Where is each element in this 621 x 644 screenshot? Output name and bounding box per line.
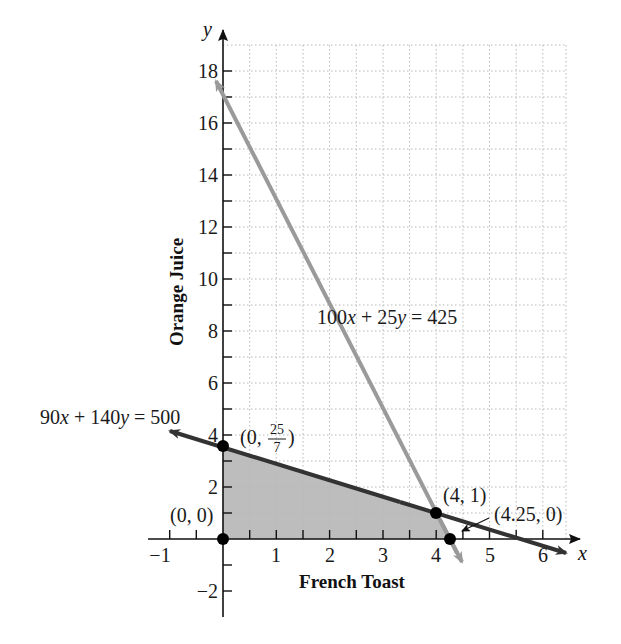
point-corner-4-1 (430, 507, 442, 519)
x-tick-label: 2 (325, 544, 335, 566)
point-label-corner: (4, 1) (443, 484, 486, 507)
point-label-origin: (0, 0) (170, 504, 213, 527)
x-tick-label: 5 (485, 544, 495, 566)
y-tick-label: 16 (198, 112, 218, 134)
point-label-y-intercept-close: ) (288, 426, 295, 449)
point-y-intercept (217, 440, 229, 452)
y-tick-label: −2 (197, 580, 218, 602)
y-tick-label: 10 (198, 268, 218, 290)
point-origin (217, 533, 229, 545)
x-axis-variable: x (577, 542, 587, 564)
x-tick-label: 1 (271, 544, 281, 566)
x-tick-label: 3 (378, 544, 388, 566)
y-tick-label: 8 (208, 320, 218, 342)
y-tick-label: 18 (198, 60, 218, 82)
point-x-intercept (444, 533, 456, 545)
line-label-100x-25y-425: 100x + 25y = 425 (317, 306, 457, 329)
x-tick-label: −1 (149, 544, 170, 566)
y-axis-variable: y (201, 18, 212, 41)
point-label-y-intercept-open: (0, (240, 426, 262, 449)
y-tick-label: 14 (198, 164, 218, 186)
y-ticks (223, 71, 232, 591)
x-tick-labels: −1 1 2 3 4 5 6 (149, 544, 548, 566)
fraction-numerator: 25 (270, 422, 284, 437)
y-tick-label: 2 (208, 476, 218, 498)
point-label-x-intercept: (4.25, 0) (494, 503, 562, 526)
y-axis-title: Orange Juice (166, 238, 187, 346)
x-axis-title: French Toast (299, 571, 405, 592)
x-tick-label: 4 (431, 544, 441, 566)
chart-canvas: −1 1 2 3 4 5 6 −2 2 4 6 8 10 12 14 16 18… (0, 0, 621, 644)
line-label-90x-140y-500: 90x + 140y = 500 (40, 406, 180, 429)
y-tick-label: 12 (198, 216, 218, 238)
fraction-denominator: 7 (274, 440, 281, 455)
y-tick-label: 6 (208, 372, 218, 394)
